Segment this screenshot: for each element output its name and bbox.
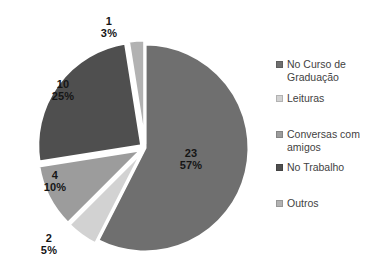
slice-label-4: 1025% — [52, 78, 75, 102]
legend-label: No Curso de Graduação — [287, 58, 363, 84]
slice-value: 23 — [180, 147, 203, 159]
legend-color-swatch-icon — [276, 164, 283, 171]
legend-label: Leituras — [287, 92, 363, 105]
legend-color-swatch-icon — [276, 61, 283, 68]
legend-item-5: Outros — [276, 197, 363, 210]
legend-color-swatch-icon — [276, 95, 283, 102]
legend-item-4: No Trabalho — [276, 161, 363, 174]
legend-item-3: Conversas com amigos — [276, 128, 363, 154]
slice-value: 1 — [101, 15, 117, 27]
slice-label-5: 13% — [101, 15, 117, 39]
slice-label-1: 2357% — [180, 147, 203, 171]
slice-percent: 3% — [101, 27, 117, 39]
slice-percent: 25% — [52, 90, 75, 102]
slice-percent: 10% — [44, 181, 67, 193]
legend-label: Outros — [287, 197, 363, 210]
legend-item-1: No Curso de Graduação — [276, 58, 363, 84]
chart-legend: No Curso de GraduaçãoLeiturasConversas c… — [276, 0, 368, 270]
legend-item-2: Leituras — [276, 92, 363, 105]
slice-label-2: 25% — [41, 232, 57, 256]
slice-label-3: 410% — [44, 169, 67, 193]
slice-value: 2 — [41, 232, 57, 244]
legend-color-swatch-icon — [276, 200, 283, 207]
pie-chart: 2357%25%410%1025%13% No Curso de Graduaç… — [0, 0, 371, 270]
legend-label: Conversas com amigos — [287, 128, 363, 154]
legend-color-swatch-icon — [276, 131, 283, 138]
pie-slice-4 — [38, 43, 142, 162]
legend-label: No Trabalho — [287, 161, 363, 174]
slice-value: 10 — [52, 78, 75, 90]
slice-percent: 57% — [180, 159, 203, 171]
slice-value: 4 — [44, 169, 67, 181]
slice-percent: 5% — [41, 244, 57, 256]
